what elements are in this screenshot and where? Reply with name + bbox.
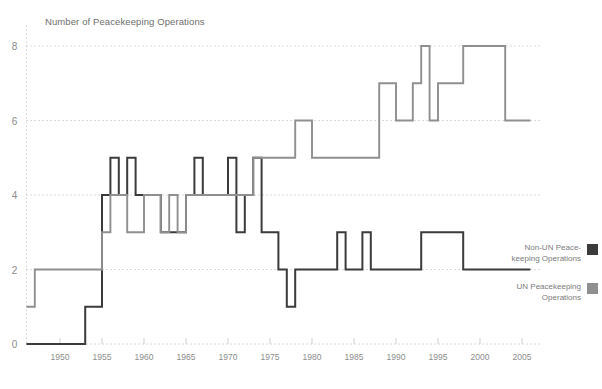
chart-legend: Non-UN Peace- keeping Operations UN Peac… [486,243,598,321]
y-tick-label: 6 [12,116,18,127]
y-tick-label: 2 [12,265,18,276]
x-tick-label: 1985 [345,352,364,362]
x-axis-ticks [60,338,522,344]
x-tick-label: 2000 [471,352,490,362]
y-tick-label: 0 [12,339,18,350]
x-tick-label: 1990 [387,352,406,362]
x-tick-label: 1975 [261,352,280,362]
x-tick-label: 1995 [429,352,448,362]
legend-label-un: UN Peacekeeping Operations [517,282,587,303]
legend-label-non-un: Non-UN Peace- keeping Operations [512,243,587,264]
y-axis-tick-labels: 02468 [12,41,18,350]
x-tick-label: 1950 [51,352,70,362]
x-tick-label: 2005 [513,352,532,362]
x-tick-label: 1965 [177,352,196,362]
chart-container: Number of Peacekeeping Operations 02468 … [0,0,602,389]
chart-plot-area: 02468 1950195519601965197019751980198519… [0,0,602,389]
x-axis-tick-labels: 1950195519601965197019751980198519901995… [51,352,532,362]
y-tick-label: 4 [12,190,18,201]
x-tick-label: 1960 [135,352,154,362]
legend-item-non-un[interactable]: Non-UN Peace- keeping Operations [486,243,598,264]
x-tick-label: 1955 [93,352,112,362]
legend-swatch-un [587,283,598,294]
x-tick-label: 1980 [303,352,322,362]
legend-item-un[interactable]: UN Peacekeeping Operations [486,282,598,303]
y-tick-label: 8 [12,41,18,52]
x-tick-label: 1970 [219,352,238,362]
legend-swatch-non-un [587,244,598,255]
